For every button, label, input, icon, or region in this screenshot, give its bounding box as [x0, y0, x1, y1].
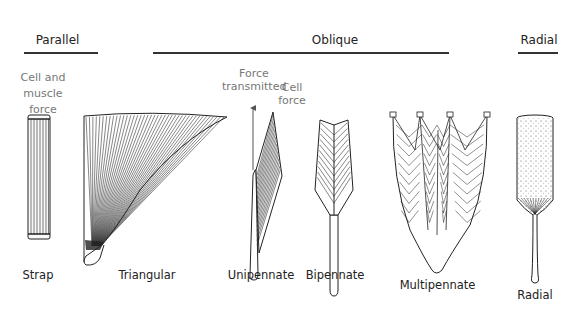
label-bipennate: Bipennate	[300, 268, 370, 282]
unipennate-muscle-illustration	[250, 108, 282, 280]
strap-muscle-illustration	[28, 115, 50, 239]
label-unipennate: Unipennate	[226, 268, 296, 282]
label-multipennate: Multipennate	[395, 278, 480, 292]
triangular-muscle-illustration	[84, 113, 227, 265]
label-radial: Radial	[510, 288, 560, 302]
label-strap: Strap	[18, 268, 58, 282]
multipennate-muscle-illustration	[390, 112, 490, 273]
radial-muscle-illustration	[517, 115, 553, 283]
label-triangular: Triangular	[112, 268, 182, 282]
